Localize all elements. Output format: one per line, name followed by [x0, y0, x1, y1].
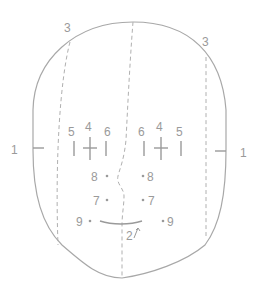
label-4-left: 4	[85, 120, 92, 134]
left-dashed-guide	[57, 42, 70, 245]
label-6-left: 6	[104, 125, 111, 139]
head-diagram: 3 3 1 1 5 4 6 6 4 5 8 8 7 7 9 9 2	[0, 0, 259, 294]
point-9-right	[162, 220, 165, 223]
label-1-right: 1	[240, 146, 247, 160]
label-9-left: 9	[76, 215, 83, 229]
label-3-right: 3	[202, 35, 209, 49]
mouth-arrow-icon	[134, 228, 140, 238]
point-7-left	[106, 199, 109, 202]
label-6-right: 6	[138, 125, 145, 139]
label-7-left: 7	[93, 194, 100, 208]
label-8-left: 8	[91, 170, 98, 184]
label-1-left: 1	[11, 143, 18, 157]
label-8-right: 8	[147, 170, 154, 184]
point-8-left	[106, 175, 109, 178]
label-5-right: 5	[176, 125, 183, 139]
label-5-left: 5	[68, 125, 75, 139]
point-7-right	[142, 199, 145, 202]
point-9-left	[89, 220, 92, 223]
mouth-line	[100, 221, 142, 224]
label-7-right: 7	[148, 194, 155, 208]
point-8-right	[142, 175, 145, 178]
label-9-right: 9	[167, 215, 174, 229]
label-3-left: 3	[64, 21, 71, 35]
label-4-right: 4	[156, 120, 163, 134]
label-2-mouth: 2	[126, 229, 133, 243]
